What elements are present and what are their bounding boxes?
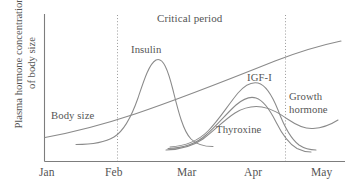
annotation-igf-i: IGF-I xyxy=(247,72,272,83)
annotation-growth-hormone-line-1: Growth xyxy=(289,90,328,103)
annotation-growth-hormone-line-2: hormone xyxy=(289,103,328,116)
x-tick-label-jan: Jan xyxy=(39,167,55,179)
series-curve-insulin xyxy=(76,59,213,146)
y-axis-label-line-2: of body size xyxy=(26,0,39,138)
annotation-critical-period: Critical period xyxy=(157,13,222,24)
hormone-concentration-chart: Plasma hormone concentration of body siz… xyxy=(0,0,346,193)
y-axis-label-line-1: Plasma hormone concentration xyxy=(13,0,26,138)
y-axis-label: Plasma hormone concentration of body siz… xyxy=(13,0,43,138)
annotation-body-size: Body size xyxy=(51,110,94,121)
x-tick-label-feb: Feb xyxy=(105,167,123,179)
annotation-thyroxine: Thyroxine xyxy=(216,124,261,135)
x-tick-label-apr: Apr xyxy=(244,167,262,179)
x-tick-label-may: May xyxy=(311,167,332,179)
annotation-insulin: Insulin xyxy=(131,44,161,55)
annotation-growth-hormone: Growth hormone xyxy=(289,90,328,115)
x-tick-label-mar: Mar xyxy=(177,167,196,179)
